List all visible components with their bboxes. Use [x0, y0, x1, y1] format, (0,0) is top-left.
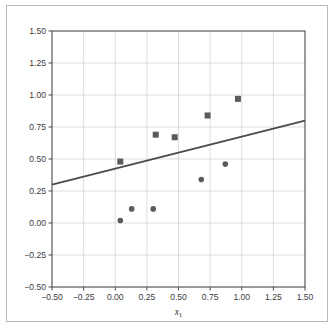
x-tick-label: −0.25 — [73, 292, 95, 302]
grid-lines — [52, 31, 305, 287]
y-tick-label: 0.25 — [29, 186, 46, 196]
figure-root: −0.50−0.250.000.250.500.751.001.251.50−0… — [0, 0, 334, 328]
y-tick-label: 0.75 — [29, 122, 46, 132]
x-tick-label: 0.00 — [107, 292, 124, 302]
data-point-square — [117, 159, 123, 165]
y-tick-label: 1.50 — [29, 26, 46, 36]
y-tick-label: 1.00 — [29, 90, 46, 100]
x-axis-title: x1 — [174, 307, 183, 319]
data-point-circle — [129, 206, 135, 212]
x-tick-label: 1.50 — [297, 292, 314, 302]
axis-tick-labels: −0.50−0.250.000.250.500.751.001.251.50−0… — [24, 26, 313, 302]
data-point-circle — [223, 161, 229, 167]
y-tick-label: −0.50 — [24, 282, 46, 292]
x-tick-label: 0.75 — [202, 292, 219, 302]
x-axis-title-text: x1 — [174, 307, 183, 319]
data-point-square — [205, 112, 211, 118]
x-tick-label: 1.00 — [233, 292, 250, 302]
scatter-plot: −0.50−0.250.000.250.500.751.001.251.50−0… — [0, 0, 334, 328]
data-point-square — [235, 96, 241, 102]
y-tick-label: −0.25 — [24, 250, 46, 260]
data-point-square — [172, 134, 178, 140]
data-point-square — [153, 132, 159, 138]
data-point-circle — [150, 206, 156, 212]
x-tick-label: 1.25 — [265, 292, 282, 302]
data-point-circle — [118, 218, 124, 224]
axis-ticks — [49, 31, 306, 291]
y-tick-label: 0.50 — [29, 154, 46, 164]
data-points — [117, 96, 241, 223]
y-tick-label: 1.25 — [29, 58, 46, 68]
y-tick-label: 0.00 — [29, 218, 46, 228]
x-tick-label: −0.50 — [41, 292, 63, 302]
x-tick-label: 0.50 — [170, 292, 187, 302]
x-tick-label: 0.25 — [139, 292, 156, 302]
data-point-circle — [198, 177, 204, 183]
